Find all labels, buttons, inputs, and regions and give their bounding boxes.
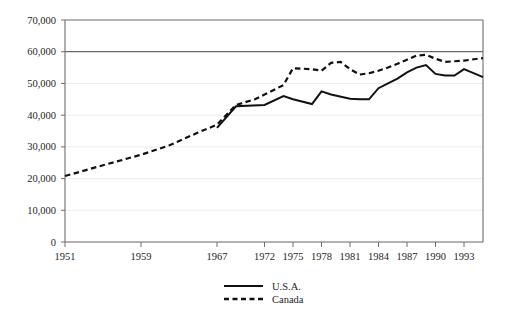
x-tick-label-1987: 1987 (397, 251, 418, 262)
x-tick-label-1951: 1951 (55, 251, 76, 262)
y-tick-label-20000: 20,000 (27, 173, 56, 184)
x-tick-label-group: 1951195919671972197519781981198419871990… (55, 251, 475, 262)
y-tick-label-0: 0 (51, 237, 56, 248)
x-tick-label-1990: 1990 (425, 251, 446, 262)
chart-figure: 010,00020,00030,00040,00050,00060,00070,… (0, 0, 507, 323)
y-tick-label-group: 010,00020,00030,00040,00050,00060,00070,… (27, 15, 56, 248)
line-chart: 010,00020,00030,00040,00050,00060,00070,… (0, 0, 507, 323)
y-tick-label-40000: 40,000 (27, 110, 56, 121)
y-tick-label-30000: 30,000 (27, 141, 56, 152)
plot-area-background (65, 20, 483, 242)
legend-label-canada: Canada (272, 294, 304, 305)
chart-legend: U.S.A. Canada (224, 281, 304, 305)
x-tick-label-1975: 1975 (283, 251, 304, 262)
x-tick-label-1984: 1984 (368, 251, 390, 262)
y-tick-label-70000: 70,000 (27, 15, 56, 26)
x-tick-label-1993: 1993 (454, 251, 475, 262)
x-tick-label-1972: 1972 (254, 251, 275, 262)
x-tick-label-1967: 1967 (207, 251, 228, 262)
legend-label-usa: U.S.A. (272, 281, 301, 292)
y-tick-label-60000: 60,000 (27, 46, 56, 57)
x-tick-label-1981: 1981 (340, 251, 361, 262)
y-tick-mark-group (61, 20, 65, 242)
y-tick-label-50000: 50,000 (27, 78, 56, 89)
y-tick-label-10000: 10,000 (27, 205, 56, 216)
x-tick-mark-group (65, 242, 464, 247)
x-tick-label-1978: 1978 (311, 251, 332, 262)
x-tick-label-1959: 1959 (131, 251, 152, 262)
